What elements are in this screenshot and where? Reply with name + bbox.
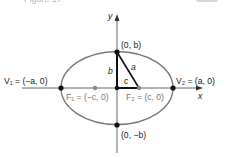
v2-label: V₂ = (a, 0) [176,76,215,86]
center-point [115,86,120,91]
f2-label: F₂ = (c, 0) [126,92,164,102]
focus-f1-point [93,86,97,90]
ellipse-diagram: y x (0, b) (0, −b) V₁ = (−a, 0) V₂ = (a,… [0,0,226,157]
triangle-label-b: b [108,66,113,76]
vertex-v2-point [170,85,175,90]
bottom-point [114,122,119,127]
y-axis-arrow-icon [115,14,120,21]
y-axis-label: y [107,11,113,21]
focus-f2-point [137,86,141,90]
top-point-label: (0, b) [121,40,141,50]
triangle-label-c: c [124,76,129,86]
top-point [114,49,119,54]
bottom-point-label: (0, −b) [121,130,146,140]
x-axis-arrow-icon [196,86,203,91]
triangle-label-a: a [131,62,136,72]
f1-label: F₁ = (−c, 0) [66,92,109,102]
vertex-v1-point [58,85,63,90]
v1-label: V₁ = (−a, 0) [4,76,48,86]
x-axis-label: x [197,91,203,101]
